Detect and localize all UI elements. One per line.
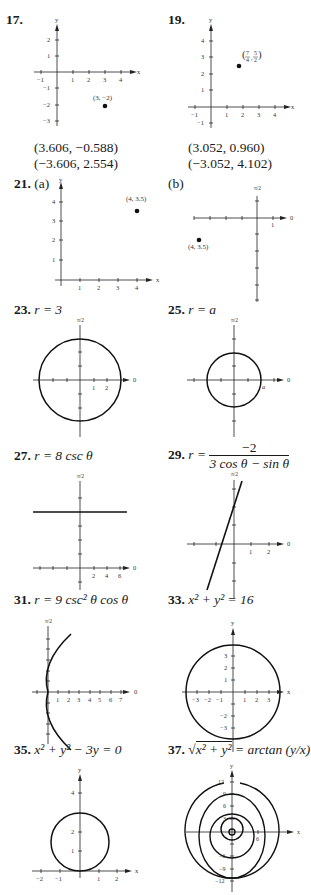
svg-text:3: 3: [52, 217, 55, 224]
svg-text:4: 4: [119, 76, 123, 83]
svg-text:−6: −6: [219, 853, 225, 859]
equation-fraction: −2 3 cos θ − sin θ: [209, 440, 289, 471]
answer-17-2: (−3.606, 2.554): [34, 156, 118, 172]
graph-23-polar-circle: 0 1 2 π/2: [0, 315, 154, 445]
svg-text:x: x: [135, 867, 139, 874]
svg-text:x: x: [287, 688, 291, 695]
svg-text:5: 5: [254, 50, 257, 56]
answer-17-1: (3.606, −0.588): [34, 140, 118, 156]
svg-text:−3: −3: [43, 117, 50, 124]
svg-text:0: 0: [290, 214, 293, 221]
svg-text:1: 1: [52, 256, 55, 263]
graph-25-polar-circle: 0 a π/2: [154, 315, 308, 445]
equation: x² + y² − 3y = 0: [34, 742, 121, 757]
svg-text:6: 6: [256, 836, 259, 842]
svg-text:2: 2: [67, 696, 70, 703]
svg-text:2: 2: [87, 76, 90, 83]
equation-lhs: r =: [188, 447, 206, 462]
svg-text:1: 1: [47, 52, 50, 59]
line-curve: [207, 481, 242, 590]
svg-text:(4, 3.5): (4, 3.5): [126, 195, 147, 203]
svg-text:−2: −2: [204, 696, 211, 703]
svg-text:4: 4: [52, 198, 56, 205]
problem-35-header: 35. x² + y² − 3y = 0: [14, 742, 121, 758]
svg-text:4: 4: [105, 572, 109, 579]
svg-text:π/2: π/2: [254, 185, 261, 191]
svg-text:0: 0: [287, 376, 290, 383]
svg-text:2: 2: [105, 384, 108, 391]
answer-19-1: (3.052, 0.960): [188, 140, 265, 156]
svg-text:3: 3: [223, 816, 226, 822]
svg-text:2: 2: [115, 875, 118, 882]
svg-text:−3: −3: [192, 696, 199, 703]
svg-text:1: 1: [243, 696, 246, 703]
svg-text:2: 2: [267, 548, 270, 555]
svg-text:2: 2: [52, 236, 55, 243]
equation: r = 9 csc² θ cos θ: [34, 592, 128, 607]
svg-text:3: 3: [267, 696, 270, 703]
svg-text:4: 4: [246, 57, 249, 63]
svg-text:a: a: [262, 383, 265, 390]
svg-text:−1: −1: [197, 119, 204, 126]
svg-text:y: y: [230, 763, 233, 769]
y-axis-label: y: [55, 16, 59, 23]
equation: x² + y² = 16: [188, 592, 253, 607]
svg-text:3: 3: [201, 53, 204, 60]
svg-text:7: 7: [246, 50, 249, 56]
svg-text:π/2: π/2: [77, 317, 84, 323]
svg-text:1: 1: [271, 221, 274, 228]
problem-33-header: 33. x² + y² = 16: [168, 592, 254, 608]
svg-text:y: y: [231, 619, 235, 626]
svg-text:π/2: π/2: [231, 317, 238, 323]
point-label: ( 7 4 , 5 2 ): [242, 48, 262, 63]
svg-text:0: 0: [133, 376, 136, 383]
svg-text:π/2: π/2: [231, 471, 238, 477]
graph-29-polar-line: 0 1 2 π/2: [154, 470, 308, 600]
svg-text:2: 2: [71, 828, 74, 835]
x-axis-label: x: [137, 68, 141, 75]
svg-text:1: 1: [224, 676, 227, 683]
svg-text:−3: −3: [220, 724, 227, 731]
svg-text:6: 6: [109, 696, 113, 703]
svg-text:2: 2: [241, 111, 244, 118]
svg-text:3: 3: [77, 696, 80, 703]
svg-text:2: 2: [224, 664, 227, 671]
graph-17-rect-point: x y −1 1 2 3 4 2 1 −1 −2 −3 (3, −2): [0, 0, 154, 130]
problem-27-header: 27. r = 8 csc θ: [14, 448, 93, 464]
svg-text:2: 2: [92, 572, 95, 579]
svg-text:1: 1: [71, 76, 74, 83]
graph-31-polar-parabola: 0 1 2 3 4 5 6 7 π/2: [0, 608, 154, 738]
svg-text:4: 4: [71, 789, 75, 796]
svg-text:7: 7: [119, 696, 123, 703]
svg-text:−12: −12: [215, 878, 224, 884]
svg-text:4: 4: [88, 696, 92, 703]
svg-text:9: 9: [223, 791, 226, 797]
graph-21a-rect-point: x y 1 2 3 4 4 3 2 1 (4, 3.5): [0, 178, 154, 303]
problem-31-header: 31. r = 9 csc² θ cos θ: [14, 592, 128, 608]
svg-text:−1: −1: [43, 84, 50, 91]
svg-text:y: y: [59, 176, 63, 183]
equation-sqrt: √x² + y²: [188, 742, 231, 758]
svg-text:−2: −2: [36, 875, 43, 882]
svg-text:3: 3: [103, 76, 106, 83]
point-label: (3, −2): [93, 94, 113, 102]
svg-text:): ): [258, 48, 262, 61]
svg-text:1: 1: [201, 86, 204, 93]
svg-text:12: 12: [218, 779, 224, 785]
svg-text:2: 2: [47, 36, 50, 43]
answer-19-2: (−3.052, 4.102): [188, 156, 272, 172]
svg-text:0: 0: [287, 540, 290, 547]
svg-text:−2: −2: [43, 101, 50, 108]
svg-text:2: 2: [201, 70, 204, 77]
graph-35-circle: x y −2 −1 1 2 4 2 1: [0, 760, 154, 895]
svg-text:3: 3: [257, 111, 260, 118]
svg-text:−1: −1: [216, 696, 223, 703]
graph-21b-polar-point: 0 1 π/2 (4, 3.5): [154, 178, 308, 303]
problem-29-header: 29. r = −2 3 cos θ − sin θ: [168, 440, 289, 471]
equation: r = 8 csc θ: [34, 448, 92, 463]
svg-text:y: y: [78, 766, 82, 773]
svg-text:−1: −1: [191, 111, 198, 118]
svg-text:5: 5: [98, 696, 101, 703]
svg-text:1: 1: [92, 384, 95, 391]
svg-text:π/2: π/2: [77, 473, 84, 479]
